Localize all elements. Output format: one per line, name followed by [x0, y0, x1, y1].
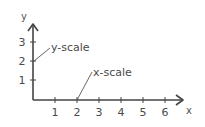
x-axis-label: x [186, 105, 192, 116]
x-tick-label: 2 [74, 106, 81, 119]
y-tick-label: 2 [19, 55, 26, 68]
x-tick-label: 5 [140, 106, 147, 119]
x-tick-label: 1 [52, 106, 59, 119]
coordinate-diagram: 1 2 3 4 5 6 1 2 3 x y y-scale x-scale [0, 0, 205, 127]
y-scale-leader-line [34, 48, 50, 61]
y-scale-annotation: y-scale [51, 41, 90, 54]
x-tick-label: 6 [162, 106, 169, 119]
y-tick-label: 1 [19, 74, 26, 87]
y-axis-label: y [21, 11, 27, 22]
x-tick-label: 4 [118, 106, 125, 119]
x-scale-leader-line [77, 72, 92, 100]
x-tick-label: 3 [96, 106, 103, 119]
y-tick-label: 3 [19, 36, 26, 49]
x-scale-annotation: x-scale [93, 66, 132, 79]
